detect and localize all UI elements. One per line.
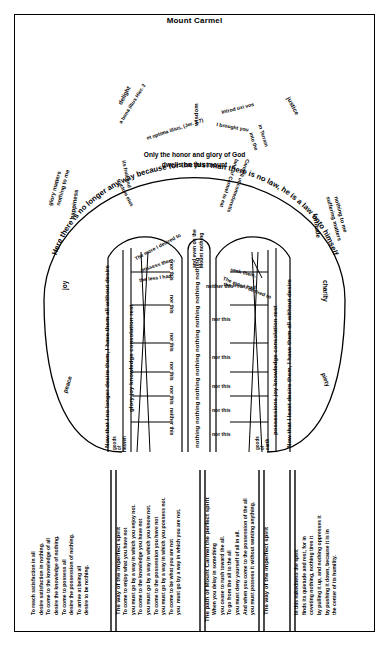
right-path-rung-2: nor this — [212, 317, 231, 322]
right-path-goods-line3: earth — [266, 439, 271, 450]
left-path-rung-4: nor this — [169, 362, 174, 381]
left-path-rung-2: nor this — [169, 295, 174, 314]
left-path-column-labels: glory joy knowledge consolation rest — [128, 305, 134, 412]
bottom-panel-3-heading: The way of the imperfect spirit — [262, 527, 269, 615]
summit-line-2: dwells on this mount — [0, 162, 389, 169]
virtue-joy: joy — [62, 280, 69, 290]
bottom-panel-0-lines: To reach satisfaction in all desire sati… — [30, 534, 91, 615]
virtue-charity: charity — [321, 280, 328, 302]
right-path-rung-4: nor this — [212, 384, 231, 389]
right-path-column-labels: possessions joy knowledge consolation re… — [272, 306, 278, 435]
bottom-panel-1-lines: To come to enjoy what you have not you m… — [122, 497, 183, 615]
virtue-wisdom: wisdom — [193, 103, 199, 126]
mount-carmel-diagram: Mount Carmel — [0, 0, 389, 646]
summit-line-1: Only the honor and glory of God — [0, 152, 389, 159]
left-path-rung-3: nor this — [169, 333, 174, 352]
right-path-banner: Now that I least desire them, I have the… — [286, 279, 292, 448]
right-path-rung-3: nor this — [212, 355, 231, 360]
bottom-panel-2-heading: The path of Mount Carmel the perfect spi… — [203, 497, 210, 622]
left-path-rung-5: nor this — [169, 386, 174, 405]
left-path-goods-line3: heaven — [123, 436, 128, 452]
right-path-rung-6: nor this — [212, 432, 231, 437]
bottom-panel-1-heading: The way of the imperfect spirit — [114, 527, 121, 615]
bottom-panel-2-lines: When you delay in something you cease to… — [211, 498, 257, 615]
center-path-repeats: nothing nothing nothing nothing nothing … — [194, 257, 200, 448]
left-path-banner: Now that I no longer desire them, I have… — [104, 265, 110, 448]
bottom-text-panels: To reach satisfaction in all desire sati… — [14, 455, 375, 632]
bottom-panel-3-lines: In this nakedness the spirit finds its q… — [293, 515, 339, 615]
left-path-rung-6: neither this — [169, 408, 174, 435]
right-path-rung-1: neither this — [206, 284, 233, 289]
right-path-rung-5: nor this — [212, 408, 231, 413]
left-path-rung-1: nor this — [169, 262, 174, 281]
